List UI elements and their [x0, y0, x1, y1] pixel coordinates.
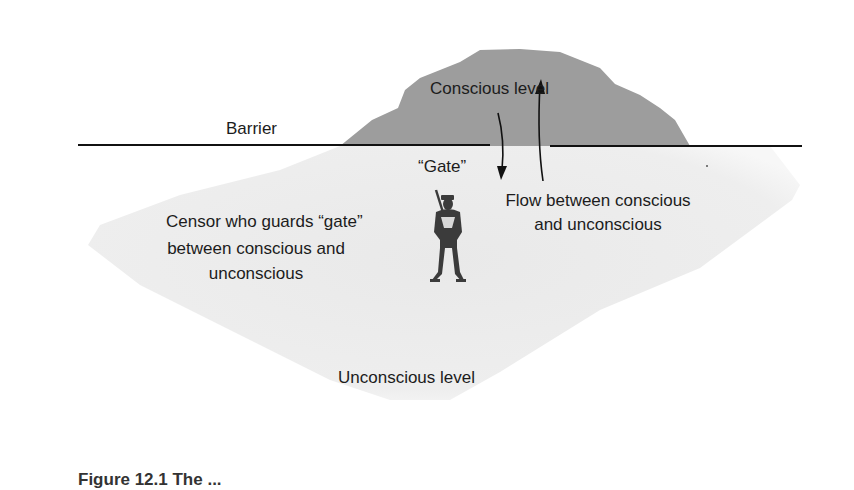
flow-label: Flow between conscious and unconscious	[488, 190, 708, 235]
speck	[706, 165, 708, 167]
censor-label: Censor who guards “gate” between conscio…	[166, 211, 346, 284]
figure-caption-partial: Figure 12.1 The ...	[78, 470, 222, 490]
censor-label-line1: Censor who guards “gate”	[166, 211, 346, 232]
gate-label: “Gate”	[418, 156, 466, 177]
censor-label-line2: between conscious and	[166, 238, 346, 259]
barrier-label: Barrier	[226, 118, 277, 139]
censor-label-line3: unconscious	[166, 263, 346, 284]
flow-label-line1: Flow between conscious	[488, 190, 708, 211]
flow-label-line2: and unconscious	[488, 214, 708, 235]
unconscious-level-label: Unconscious level	[338, 367, 475, 388]
conscious-level-label: Conscious level	[430, 78, 549, 99]
